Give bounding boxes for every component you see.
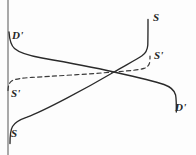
label-demand-shifted-top-left: D' (12, 30, 23, 41)
demand-shifted-curve (9, 32, 176, 112)
supply-shifted-curve (8, 56, 150, 91)
label-demand-shifted-bottom-right: D' (175, 102, 186, 113)
label-supply-top-right: S (153, 12, 159, 23)
label-supply-shifted-left: S' (11, 88, 21, 99)
label-supply-shifted-right: S' (154, 50, 164, 61)
diagram-canvas (0, 0, 196, 155)
supply-curve (10, 20, 148, 144)
label-supply-bottom-left: S (11, 128, 17, 139)
supply-demand-figure: D' S S' S' S D' (0, 0, 196, 155)
